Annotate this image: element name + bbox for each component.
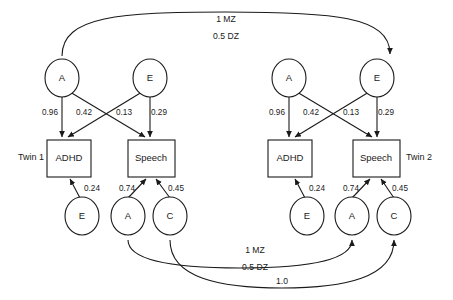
twin2-latent-e-top-label: E <box>374 72 380 83</box>
twin1-latent-a-bottom: A <box>111 197 145 235</box>
twin2-observed-speech: Speech <box>353 140 400 177</box>
twin2-coef-a-speech: 0.42 <box>303 108 319 117</box>
twin2-coef-e-speech: 0.29 <box>378 108 394 117</box>
top-a-correlation-arc: 1 MZ 0.5 DZ <box>62 12 390 56</box>
twin2-coef-a-bottom: 0.74 <box>343 184 359 193</box>
twin1-group: A E 0.96 0.42 0.13 0.29 Twin 1 ADHD Spee… <box>18 59 187 235</box>
twin1-observed-speech: Speech <box>128 140 175 177</box>
twin2-coef-e-adhd: 0.13 <box>343 108 359 117</box>
top-correlation-label-mz: 1 MZ <box>216 14 236 24</box>
twin1-latent-c-bottom: C <box>153 197 187 235</box>
twin2-path-e-bottom-to-adhd <box>295 179 305 198</box>
twin2-coef-c-bottom: 0.45 <box>392 184 408 193</box>
twin2-observed-speech-label: Speech <box>360 152 392 163</box>
twin1-coef-a-adhd: 0.96 <box>42 108 58 117</box>
twin2-latent-e-top: E <box>360 59 394 97</box>
bottom-a-correlation-arc: 1 MZ 0.5 DZ <box>128 240 352 272</box>
twin1-observed-adhd-label: ADHD <box>56 152 83 163</box>
twin1-latent-e-bottom: E <box>65 197 99 235</box>
twin1-coef-e-adhd: 0.13 <box>116 108 132 117</box>
twin2-latent-a-bottom: A <box>335 197 369 235</box>
twin1-coef-e-bottom: 0.24 <box>84 184 100 193</box>
bottom-a-correlation-path <box>128 240 352 268</box>
twin1-observed-speech-label: Speech <box>135 152 167 163</box>
twin1-latent-e-top: E <box>133 59 167 97</box>
twin1-coef-e-speech: 0.29 <box>151 108 167 117</box>
twin1-coef-a-speech: 0.42 <box>76 108 92 117</box>
twin2-latent-a-top-label: A <box>286 72 293 83</box>
twin2-observed-adhd-label: ADHD <box>277 152 304 163</box>
twin2-latent-c-bottom-label: C <box>391 210 398 221</box>
twin2-latent-e-bottom: E <box>290 197 324 235</box>
twin1-latent-e-top-label: E <box>147 72 153 83</box>
twin2-coef-a-adhd: 0.96 <box>269 108 285 117</box>
twin2-group: A E 0.96 0.42 0.13 0.29 Twin 2 ADHD Spee… <box>268 59 432 235</box>
bottom-c-correlation-label: 1.0 <box>276 276 288 286</box>
twin1-latent-a-top: A <box>45 59 79 97</box>
bottom-a-correlation-label-dz: 0.5 DZ <box>242 262 268 272</box>
twin1-latent-a-bottom-label: A <box>125 210 132 221</box>
twin1-coef-c-bottom: 0.45 <box>168 184 184 193</box>
twin2-latent-c-bottom: C <box>377 197 411 235</box>
twin1-path-e-bottom-to-adhd <box>70 179 80 198</box>
path-model-canvas: 1 MZ 0.5 DZ A E 0.96 0.42 <box>0 0 453 300</box>
twin1-coef-a-bottom: 0.74 <box>119 184 135 193</box>
twin2-latent-a-top: A <box>272 59 306 97</box>
twin2-coef-e-bottom: 0.24 <box>309 184 325 193</box>
twin1-label: Twin 1 <box>18 152 44 162</box>
twin2-latent-a-bottom-label: A <box>349 210 356 221</box>
top-correlation-label-dz: 0.5 DZ <box>213 31 239 41</box>
bottom-c-correlation-arc: 1.0 <box>170 240 394 288</box>
twin2-observed-adhd: ADHD <box>268 140 312 177</box>
twin1-latent-a-top-label: A <box>59 72 66 83</box>
twin1-observed-adhd: ADHD <box>47 140 91 177</box>
bottom-a-correlation-label-mz: 1 MZ <box>245 245 265 255</box>
twin2-label: Twin 2 <box>406 152 432 162</box>
twin2-latent-e-bottom-label: E <box>304 210 310 221</box>
twin1-latent-c-bottom-label: C <box>167 210 174 221</box>
twin1-latent-e-bottom-label: E <box>79 210 85 221</box>
twin-path-model-diagram: 1 MZ 0.5 DZ A E 0.96 0.42 <box>0 0 453 300</box>
